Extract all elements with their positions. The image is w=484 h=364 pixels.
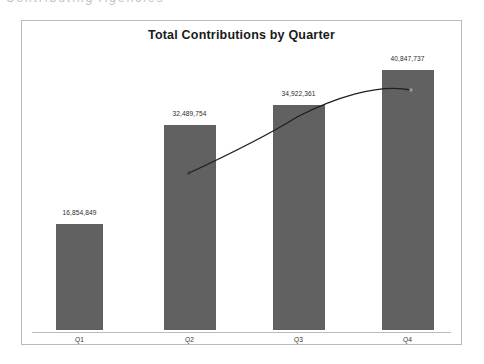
bar-q1[interactable] [56,224,103,330]
category-label-q3: Q3 [263,336,334,343]
bar-q2[interactable] [164,125,216,330]
bar-value-q1: 16,854,849 [44,209,115,216]
category-label-q4: Q4 [372,336,443,343]
category-label-q2: Q2 [154,336,225,343]
category-axis-line [32,332,451,333]
bar-value-q4: 40,847,737 [372,55,443,62]
bar-value-q2: 32,489,754 [154,110,225,117]
chart-frame: Total Contributions by Quarter 16,854,84… [21,20,462,345]
plot-area: 16,854,849 Q1 32,489,754 Q2 34,922,361 Q… [22,21,461,344]
bar-q4[interactable] [382,70,434,330]
bar-value-q3: 34,922,361 [263,90,334,97]
category-label-q1: Q1 [44,336,115,343]
clipped-page-header-text: Contributing Agencies [0,0,484,5]
bar-q3[interactable] [273,105,325,330]
